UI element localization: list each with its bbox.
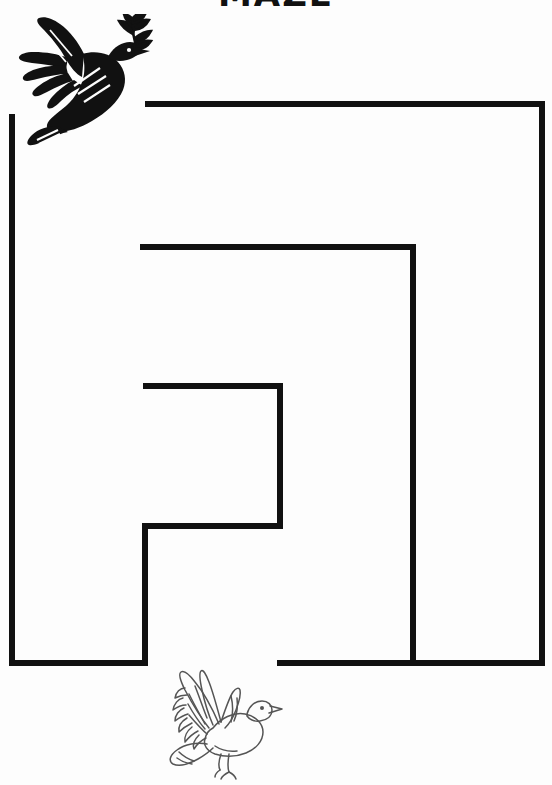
inner-upper-wall: [140, 247, 413, 666]
dove-eye: [127, 48, 131, 52]
inner-core-wall: [143, 386, 280, 666]
dove-line-art-icon: [155, 662, 285, 784]
peace-dove-silhouette-icon: [6, 14, 158, 146]
maze-worksheet-page: MAZE: [0, 0, 552, 785]
